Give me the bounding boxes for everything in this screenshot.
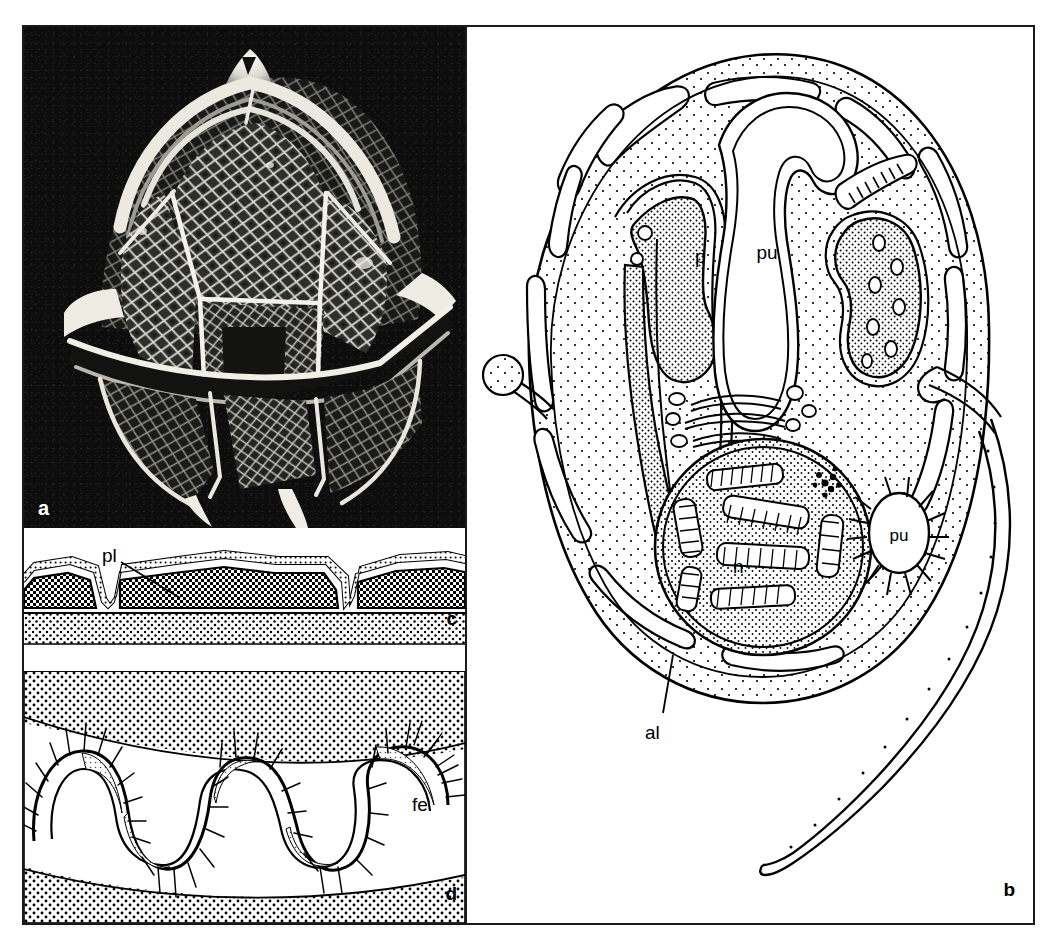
panel-d-transverse-flagellum: fe d <box>24 671 465 923</box>
figure-container: a <box>0 0 1060 941</box>
panel-b-cell-diagram: p pu <box>467 27 1033 923</box>
label-p: p <box>695 246 706 267</box>
panel-letter-c: c <box>446 608 457 630</box>
panel-letter-b: b <box>1003 879 1015 901</box>
label-n: n <box>733 556 744 577</box>
label-fe: fe <box>412 794 428 815</box>
label-pu-lower: pu <box>890 526 909 545</box>
label-pl: pl <box>102 546 117 566</box>
micrograph-artwork <box>24 27 465 528</box>
flagellum-artwork: fe <box>24 671 465 923</box>
panel-c-amphiesma-section: pl c <box>24 546 465 646</box>
cell-diagram-artwork: p pu <box>467 27 1033 923</box>
label-al: al <box>645 722 660 743</box>
panel-letter-d: d <box>445 883 457 905</box>
panel-a-micrograph: a <box>24 27 465 528</box>
panel-letter-a: a <box>38 498 49 518</box>
amphiesma-artwork: pl <box>24 546 465 646</box>
label-pu-upper: pu <box>756 242 777 263</box>
